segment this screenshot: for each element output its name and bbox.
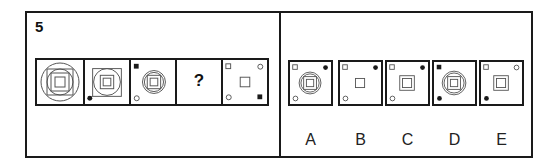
sequence-cell-2 [83, 60, 129, 104]
double-circle-corners-icon [131, 60, 175, 104]
nested-squares-icon [481, 62, 522, 104]
sequence-cell-5 [221, 60, 267, 104]
nested-circles-squares-icon [37, 60, 83, 104]
four-corner-markers-icon [223, 60, 267, 104]
option-b[interactable]: B [338, 60, 383, 106]
nested-squares-icon [387, 62, 428, 104]
square-circle-dot-icon [85, 60, 129, 104]
sequence-row: ? [35, 58, 269, 106]
option-b-figure[interactable] [338, 60, 383, 106]
option-d-figure[interactable] [432, 60, 477, 106]
double-circle-icon [434, 62, 475, 104]
option-a-figure[interactable] [288, 60, 333, 106]
option-e-label: E [479, 131, 524, 149]
question-mark: ? [177, 71, 221, 91]
sequence-cell-missing: ? [175, 60, 221, 104]
sequence-cell-1 [37, 60, 83, 104]
option-d-label: D [432, 131, 477, 149]
option-c[interactable]: C [385, 60, 430, 106]
sequence-cell-3 [129, 60, 175, 104]
small-square-icon [340, 62, 381, 104]
option-c-label: C [385, 131, 430, 149]
option-e-figure[interactable] [479, 60, 524, 106]
option-a-label: A [288, 131, 333, 149]
double-circle-icon [290, 62, 331, 104]
option-a[interactable]: A [288, 60, 333, 106]
option-b-label: B [338, 131, 383, 149]
option-c-figure[interactable] [385, 60, 430, 106]
option-d[interactable]: D [432, 60, 477, 106]
option-e[interactable]: E [479, 60, 524, 106]
question-number: 5 [35, 18, 43, 35]
